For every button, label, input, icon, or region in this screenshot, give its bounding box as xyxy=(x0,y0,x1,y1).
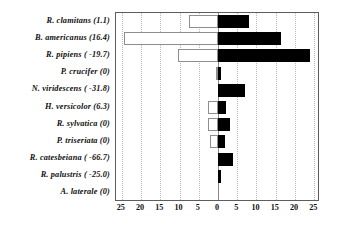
bar-open-left xyxy=(189,15,218,28)
bar-row xyxy=(116,30,318,47)
bar-filled-right xyxy=(218,49,310,62)
x-tick-label: 5 xyxy=(196,203,200,212)
category-label: N. viridescens ( -31.8) xyxy=(0,84,110,93)
bar-filled-right xyxy=(218,67,221,80)
bar-open-left xyxy=(208,118,218,131)
bar-row xyxy=(116,151,318,168)
category-label: P. triseriata (0) xyxy=(0,136,110,145)
plot-area xyxy=(115,12,319,201)
bar-filled-right xyxy=(218,118,230,131)
x-tick-label: 20 xyxy=(136,203,144,212)
plot-inner xyxy=(116,13,318,200)
bar-row xyxy=(116,13,318,30)
bar-filled-right xyxy=(218,101,226,114)
bar-filled-right xyxy=(218,135,225,148)
category-label: R. catesbeiana ( -66.7) xyxy=(0,153,110,162)
bar-row xyxy=(116,82,318,99)
bar-row xyxy=(116,116,318,133)
x-tick-label: 5 xyxy=(234,203,238,212)
bar-filled-right xyxy=(218,84,245,97)
x-tick-label: 15 xyxy=(155,203,163,212)
category-label: R. palustris ( -25.0) xyxy=(0,170,110,179)
bar-row xyxy=(116,133,318,150)
x-tick-label: 10 xyxy=(174,203,182,212)
x-tick-label: 15 xyxy=(271,203,279,212)
category-label: R. clamitans (1.1) xyxy=(0,16,110,25)
category-label: R. sylvatica (0) xyxy=(0,119,110,128)
chart-container: R. clamitans (1.1)B. americanus (16.4)R.… xyxy=(0,0,341,240)
bar-row xyxy=(116,168,318,185)
bar-filled-right xyxy=(218,153,233,166)
x-tick-label: 25 xyxy=(117,203,125,212)
bar-row xyxy=(116,185,318,202)
bar-open-left xyxy=(178,49,218,62)
bar-filled-right xyxy=(218,15,249,28)
category-label: A. laterale (0) xyxy=(0,187,110,196)
bar-row xyxy=(116,99,318,116)
x-axis-tick-labels: 2520151050510152025 xyxy=(115,203,319,219)
x-tick-label: 10 xyxy=(251,203,259,212)
category-label: R. pipiens ( -19.7) xyxy=(0,50,110,59)
category-label: B. americanus (16.4) xyxy=(0,33,110,42)
x-tick-label: 0 xyxy=(215,203,219,212)
category-label-column: R. clamitans (1.1)B. americanus (16.4)R.… xyxy=(0,12,114,201)
bar-open-left xyxy=(208,101,218,114)
x-tick-label: 25 xyxy=(309,203,317,212)
x-tick-label: 20 xyxy=(290,203,298,212)
bar-row xyxy=(116,47,318,64)
bar-open-left xyxy=(210,135,218,148)
bar-open-left xyxy=(124,32,218,45)
bar-row xyxy=(116,65,318,82)
bar-filled-right xyxy=(218,170,221,183)
category-label: P. crucifer (0) xyxy=(0,67,110,76)
category-label: H. versicolor (6.3) xyxy=(0,102,110,111)
bar-filled-right xyxy=(218,32,281,45)
